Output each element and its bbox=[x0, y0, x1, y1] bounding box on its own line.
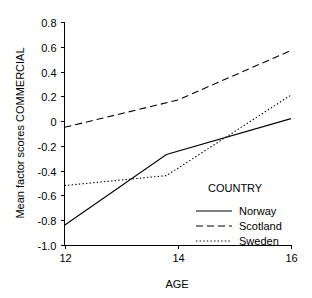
legend-title: COUNTRY bbox=[208, 182, 263, 194]
y-tick-label: -0.6 bbox=[38, 190, 57, 202]
x-tick-label: 14 bbox=[172, 252, 184, 264]
y-tick-label: -0.8 bbox=[38, 215, 57, 227]
y-axis-title: Mean factor scores COMMERCIAL bbox=[14, 47, 26, 218]
y-tick-label: -0.2 bbox=[38, 141, 57, 153]
y-tick-label: 0.4 bbox=[41, 67, 56, 79]
legend-label-norway: Norway bbox=[239, 205, 277, 217]
legend-label-scotland: Scotland bbox=[239, 220, 282, 232]
x-tick-label: 16 bbox=[285, 252, 297, 264]
chart-container: 0.80.60.40.20-0.2-0.4-0.6-0.8-1.0 121416… bbox=[0, 0, 312, 298]
series-line-scotland bbox=[65, 50, 292, 127]
x-axis-title: AGE bbox=[165, 278, 188, 290]
y-tick-label: -1.0 bbox=[38, 240, 57, 252]
y-tick-marks bbox=[61, 23, 65, 246]
y-tick-label: -0.4 bbox=[38, 166, 57, 178]
y-tick-label: 0.2 bbox=[41, 91, 56, 103]
legend: COUNTRY NorwayScotlandSweden bbox=[196, 182, 282, 247]
series-group bbox=[65, 50, 292, 225]
legend-label-sweden: Sweden bbox=[239, 235, 279, 247]
y-tick-label: 0.6 bbox=[41, 42, 56, 54]
y-tick-label: 0.8 bbox=[41, 17, 56, 29]
y-tick-label: 0 bbox=[50, 116, 56, 128]
y-tick-labels: 0.80.60.40.20-0.2-0.4-0.6-0.8-1.0 bbox=[38, 17, 57, 252]
x-tick-label: 12 bbox=[59, 252, 71, 264]
line-chart: 0.80.60.40.20-0.2-0.4-0.6-0.8-1.0 121416… bbox=[0, 0, 312, 298]
series-line-sweden bbox=[65, 95, 292, 185]
x-tick-labels: 121416 bbox=[59, 252, 297, 264]
